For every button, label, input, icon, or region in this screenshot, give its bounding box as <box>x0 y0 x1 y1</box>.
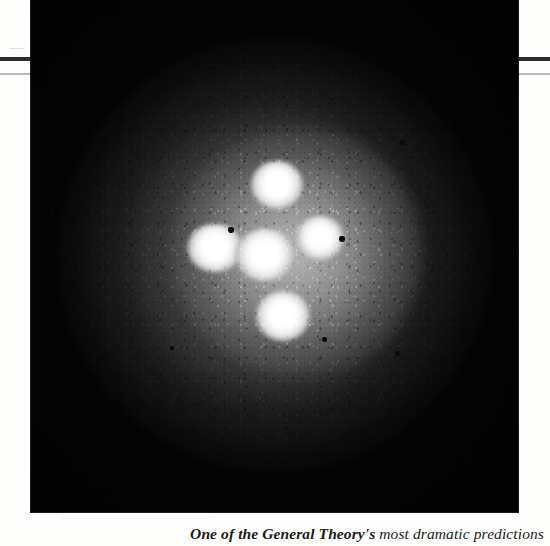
photo-plate <box>31 0 518 512</box>
margin-tick-left <box>10 48 24 49</box>
einstein-cross-photograph <box>31 0 518 512</box>
plate-speck <box>228 227 234 233</box>
plate-speck <box>170 346 174 350</box>
lensed-image-bottom <box>256 291 310 341</box>
plate-speck <box>395 351 400 356</box>
figure-caption: One of the General Theory's most dramati… <box>0 524 550 544</box>
margin-tick-bottom <box>60 518 210 519</box>
galaxy-core-center <box>235 229 295 281</box>
plate-speck <box>339 236 345 242</box>
plate-speck <box>400 140 405 145</box>
book-page: One of the General Theory's most dramati… <box>0 0 550 546</box>
caption-rest: most dramatic predictions <box>375 525 544 542</box>
lensed-image-top <box>251 161 303 209</box>
lensed-image-right <box>296 216 344 260</box>
caption-lead: One of the General Theory's <box>190 525 375 542</box>
lensed-image-left <box>187 224 243 272</box>
plate-speck <box>322 337 327 342</box>
